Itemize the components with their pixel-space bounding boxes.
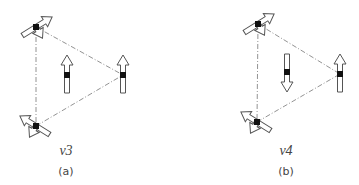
atom-right (334, 54, 346, 92)
dashed-triangle (257, 24, 340, 122)
atom-center (281, 54, 293, 92)
mode-label-a: ν3 (46, 143, 86, 159)
panel-label-a: (a) (46, 165, 86, 178)
panel-a (17, 12, 129, 140)
atom-bottom-left (238, 107, 274, 136)
atom-bottom-left (17, 111, 53, 140)
panel-label-b: (b) (266, 165, 306, 178)
atom-right (117, 55, 129, 93)
panel-b (238, 9, 346, 136)
atom-center (61, 55, 73, 93)
dashed-triangle (36, 27, 123, 126)
mode-label-b: ν4 (266, 143, 306, 159)
atom-top-left (19, 12, 55, 41)
atom-top-left (241, 9, 277, 38)
